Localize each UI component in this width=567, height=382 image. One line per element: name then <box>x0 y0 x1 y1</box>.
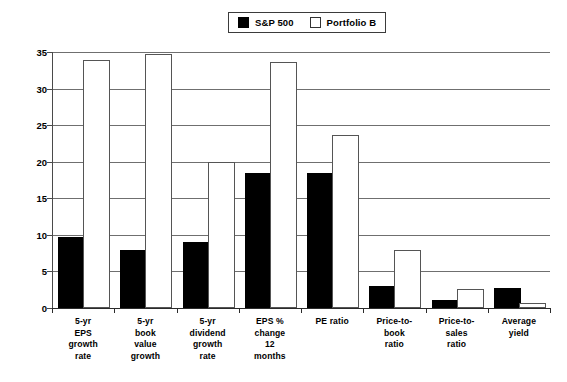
category-label-line: value <box>114 339 176 351</box>
bar-portfolio-b <box>394 250 421 308</box>
bar-portfolio-b <box>457 289 484 308</box>
category-label-line: ratio <box>363 339 425 351</box>
category-label-line: Average <box>488 316 550 328</box>
gridline <box>52 162 550 163</box>
category-label-line: Price-to- <box>363 316 425 328</box>
y-axis-tick-label: 25 <box>7 120 47 131</box>
bar-portfolio-b <box>83 60 110 308</box>
x-axis-category-label: Price-to-salesratio <box>426 316 488 351</box>
x-axis-category-labels: 5-yrEPSgrowthrate5-yrbookvaluegrowth5-yr… <box>52 316 551 380</box>
category-label-line: PE ratio <box>301 316 363 328</box>
plot-area <box>52 52 550 308</box>
x-axis-category-label: EPS %change12months <box>239 316 301 362</box>
bar-chart: S&P 500 Portfolio B 05101520253035 5-yrE… <box>0 0 567 382</box>
x-axis-tick-mark <box>488 308 489 313</box>
bar-portfolio-b <box>332 135 359 308</box>
legend-label-sp500: S&P 500 <box>255 18 294 28</box>
category-label-line: change <box>239 328 301 340</box>
x-axis-category-label: Price-to-bookratio <box>363 316 425 351</box>
open-square-icon <box>310 17 321 28</box>
bar-sp500 <box>120 250 147 308</box>
x-axis-tick-mark <box>239 308 240 313</box>
bar-portfolio-b <box>270 62 297 308</box>
bar-sp500 <box>432 300 459 308</box>
y-axis-tick-label: 15 <box>7 193 47 204</box>
legend-item-portfolio-b: Portfolio B <box>310 17 377 28</box>
y-axis-tick-label: 30 <box>7 83 47 94</box>
bar-portfolio-b <box>145 54 172 308</box>
y-axis-tick-mark <box>47 52 53 53</box>
x-axis-tick-mark <box>114 308 115 313</box>
y-axis-tick-label: 20 <box>7 156 47 167</box>
x-axis-tick-mark <box>177 308 178 313</box>
x-axis-category-label: 5-yrbookvaluegrowth <box>114 316 176 362</box>
y-axis-tick-mark <box>47 89 53 90</box>
y-axis-tick-mark <box>47 271 53 272</box>
x-axis-category-label: 5-yrdividendgrowthrate <box>177 316 239 362</box>
category-label-line: 5-yr <box>52 316 114 328</box>
category-label-line: EPS <box>52 328 114 340</box>
category-label-line: 5-yr <box>114 316 176 328</box>
x-axis-tick-mark <box>363 308 364 313</box>
y-axis-tick-label: 10 <box>7 229 47 240</box>
bar-sp500 <box>58 237 85 308</box>
category-label-line: growth <box>177 339 239 351</box>
chart-legend: S&P 500 Portfolio B <box>228 12 386 33</box>
y-axis-tick-label: 0 <box>7 303 47 314</box>
bar-sp500 <box>494 288 521 308</box>
category-label-line: growth <box>52 339 114 351</box>
gridline <box>52 125 550 126</box>
category-label-line: sales <box>426 328 488 340</box>
x-axis-category-label: PE ratio <box>301 316 363 328</box>
category-label-line: ratio <box>426 339 488 351</box>
legend-label-portfolio-b: Portfolio B <box>327 18 377 28</box>
category-label-line: 12 <box>239 339 301 351</box>
category-label-line: rate <box>177 351 239 363</box>
y-axis-tick-mark <box>47 198 53 199</box>
y-axis-tick-label: 5 <box>7 266 47 277</box>
category-label-line: yield <box>488 328 550 340</box>
bar-portfolio-b <box>208 162 235 308</box>
y-axis-tick-label: 35 <box>7 47 47 58</box>
y-axis-tick-mark <box>47 125 53 126</box>
category-label-line: book <box>114 328 176 340</box>
category-label-line: rate <box>52 351 114 363</box>
bar-sp500 <box>245 173 272 308</box>
filled-square-icon <box>238 17 249 28</box>
y-axis-tick-mark <box>47 162 53 163</box>
gridline <box>52 198 550 199</box>
category-label-line: growth <box>114 351 176 363</box>
gridline <box>52 52 550 53</box>
category-label-line: months <box>239 351 301 363</box>
y-axis-tick-mark <box>47 235 53 236</box>
category-label-line: 5-yr <box>177 316 239 328</box>
legend-item-sp500: S&P 500 <box>238 17 294 28</box>
category-label-line: Price-to- <box>426 316 488 328</box>
x-axis-tick-mark <box>52 308 53 313</box>
y-axis-labels: 05101520253035 <box>0 0 47 382</box>
category-label-line: book <box>363 328 425 340</box>
x-axis-tick-mark <box>426 308 427 313</box>
x-axis-tick-mark <box>550 308 551 313</box>
x-axis-tick-mark <box>301 308 302 313</box>
x-axis-category-label: 5-yrEPSgrowthrate <box>52 316 114 362</box>
category-label-line: dividend <box>177 328 239 340</box>
bar-sp500 <box>183 242 210 308</box>
category-label-line: EPS % <box>239 316 301 328</box>
bar-sp500 <box>369 286 396 308</box>
gridline <box>52 89 550 90</box>
bar-sp500 <box>307 173 334 308</box>
gridline <box>52 235 550 236</box>
x-axis-category-label: Averageyield <box>488 316 550 339</box>
